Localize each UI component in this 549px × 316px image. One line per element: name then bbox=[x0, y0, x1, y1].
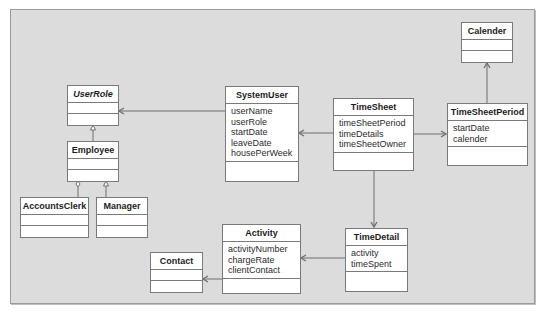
class-userrole[interactable]: UserRole bbox=[67, 85, 119, 126]
attribute: timeSpent bbox=[351, 259, 407, 270]
attribute: chargeRate bbox=[228, 255, 300, 266]
attribute: activity bbox=[351, 248, 407, 259]
operations-compartment bbox=[151, 281, 202, 292]
class-contact[interactable]: Contact bbox=[150, 252, 203, 293]
attributes-compartment bbox=[151, 270, 202, 281]
attributes-compartment bbox=[462, 40, 512, 51]
operations-compartment bbox=[462, 51, 512, 62]
operations-compartment bbox=[448, 147, 527, 165]
class-manager[interactable]: Manager bbox=[96, 197, 148, 238]
class-name: AccountsClerk bbox=[21, 198, 88, 215]
operations-compartment bbox=[346, 272, 407, 291]
attribute: activityNumber bbox=[228, 244, 300, 255]
class-name: UserRole bbox=[68, 86, 118, 103]
class-name: Manager bbox=[97, 198, 147, 215]
class-name: Calender bbox=[462, 23, 512, 40]
attribute: startDate bbox=[231, 127, 298, 138]
class-name: Employee bbox=[68, 142, 118, 159]
attribute: housePerWeek bbox=[231, 148, 298, 159]
attributes-compartment bbox=[97, 215, 147, 226]
attributes-compartment bbox=[21, 215, 88, 226]
class-name: Activity bbox=[223, 225, 300, 242]
attribute: userName bbox=[231, 106, 298, 117]
operations-compartment bbox=[97, 226, 147, 237]
class-timesheet[interactable]: TimeSheet timeSheetPeriod timeDetails ti… bbox=[333, 98, 414, 171]
attributes-compartment: activity timeSpent bbox=[346, 246, 407, 272]
attributes-compartment: userName userRole startDate leaveDate ho… bbox=[226, 104, 298, 162]
attribute: timeDetails bbox=[339, 129, 413, 140]
attributes-compartment bbox=[68, 103, 118, 114]
attributes-compartment: startDate calender bbox=[448, 121, 527, 147]
class-timedetail[interactable]: TimeDetail activity timeSpent bbox=[345, 228, 408, 292]
class-calender[interactable]: Calender bbox=[461, 22, 513, 63]
operations-compartment bbox=[334, 153, 413, 171]
class-name: TimeSheet bbox=[334, 99, 413, 116]
operations-compartment bbox=[68, 114, 118, 125]
operations-compartment bbox=[21, 226, 88, 237]
operations-compartment bbox=[68, 170, 118, 181]
class-systemuser[interactable]: SystemUser userName userRole startDate l… bbox=[225, 86, 299, 182]
attributes-compartment bbox=[68, 159, 118, 170]
class-activity[interactable]: Activity activityNumber chargeRate clien… bbox=[222, 224, 301, 294]
class-accountsclerk[interactable]: AccountsClerk bbox=[20, 197, 89, 238]
attribute: clientContact bbox=[228, 265, 300, 276]
operations-compartment bbox=[226, 162, 298, 182]
attribute: leaveDate bbox=[231, 138, 298, 149]
class-timesheetperiod[interactable]: TimeSheetPeriod startDate calender bbox=[447, 103, 528, 166]
attribute: startDate bbox=[453, 123, 527, 134]
class-name: Contact bbox=[151, 253, 202, 270]
class-employee[interactable]: Employee bbox=[67, 141, 119, 182]
attributes-compartment: activityNumber chargeRate clientContact bbox=[223, 242, 300, 279]
operations-compartment bbox=[223, 279, 300, 294]
attributes-compartment: timeSheetPeriod timeDetails timeSheetOwn… bbox=[334, 116, 413, 153]
attribute: timeSheetPeriod bbox=[339, 118, 413, 129]
attribute: timeSheetOwner bbox=[339, 139, 413, 150]
attribute: userRole bbox=[231, 117, 298, 128]
attribute: calender bbox=[453, 134, 527, 145]
class-name: TimeDetail bbox=[346, 229, 407, 246]
class-name: SystemUser bbox=[226, 87, 298, 104]
class-name: TimeSheetPeriod bbox=[448, 104, 527, 121]
